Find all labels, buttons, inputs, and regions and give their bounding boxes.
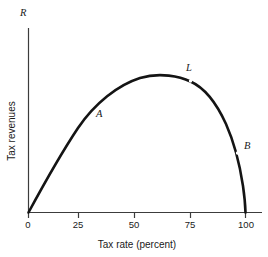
y-axis-title: Tax revenues — [7, 101, 17, 160]
x-axis-ticks — [29, 213, 246, 219]
point-label-b: B — [244, 141, 250, 152]
laffer-curve-path — [29, 75, 246, 212]
point-label-a: A — [96, 109, 102, 120]
x-tick-label-100: 100 — [238, 220, 254, 230]
laffer-curve-figure: R Tax revenues Tax rate (percent) 0 25 5… — [0, 0, 268, 257]
point-marker-a — [106, 119, 109, 122]
x-tick-label-75: 75 — [185, 220, 196, 230]
point-marker-l — [189, 79, 192, 82]
point-marker-b — [236, 151, 239, 154]
x-axis-title: Tax rate (percent) — [98, 240, 176, 250]
y-axis-symbol: R — [20, 8, 26, 19]
x-tick-label-0: 0 — [25, 220, 30, 230]
point-label-l: L — [186, 63, 192, 74]
x-tick-label-25: 25 — [73, 220, 84, 230]
x-tick-label-50: 50 — [129, 220, 140, 230]
curve-point-markers — [106, 79, 239, 154]
